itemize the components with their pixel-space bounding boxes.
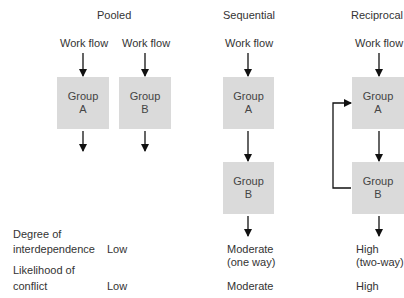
- row-label-conflict-1: Likelihood of: [13, 264, 75, 277]
- sequential-conflict-value: Moderate: [227, 280, 273, 293]
- sequential-interdependence-note: (one way): [227, 256, 275, 269]
- row-label-interdependence-1: Degree of: [13, 228, 61, 241]
- reciprocal-interdependence-note: (two-way): [356, 256, 404, 269]
- pooled-conflict-value: Low: [107, 280, 127, 293]
- reciprocal-interdependence-value: High: [356, 243, 379, 256]
- reciprocal-conflict-value: High: [356, 280, 379, 293]
- row-label-interdependence-2: interdependence: [13, 243, 95, 256]
- pooled-interdependence-value: Low: [107, 243, 127, 256]
- feedback-arrow-icon: [333, 103, 351, 188]
- row-label-conflict-2: conflict: [13, 280, 47, 293]
- sequential-interdependence-value: Moderate: [227, 243, 273, 256]
